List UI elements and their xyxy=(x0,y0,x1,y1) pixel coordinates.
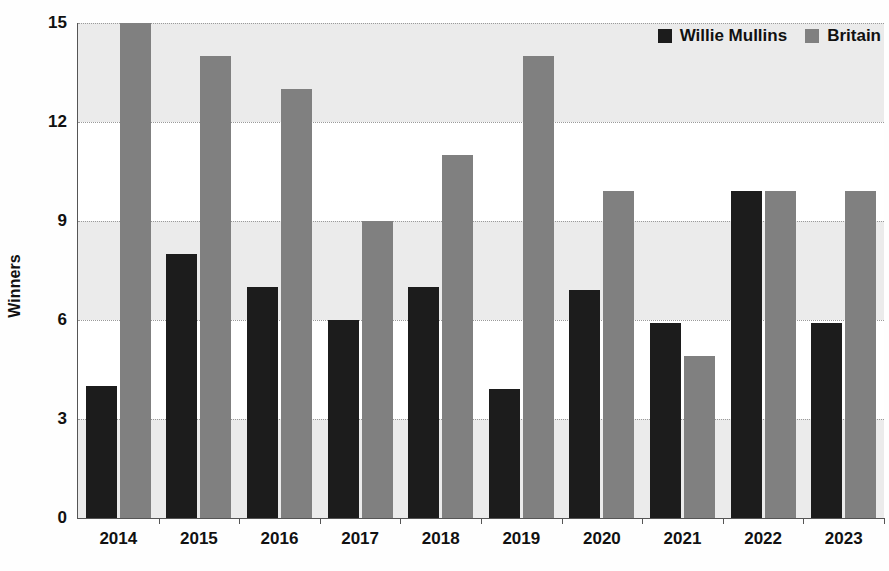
bar-2021-britain xyxy=(684,356,715,518)
bar-group: 2023 xyxy=(803,23,884,518)
y-axis-tick-label: 12 xyxy=(48,112,67,132)
y-axis-tick-label: 0 xyxy=(58,508,67,528)
y-axis-tick-label: 9 xyxy=(58,211,67,231)
bar-chart: Winners 03691215201420152016201720182019… xyxy=(0,0,889,571)
y-axis-tick-label: 15 xyxy=(48,13,67,33)
legend-label: Britain xyxy=(827,26,881,46)
x-axis-tick xyxy=(803,518,804,524)
x-axis-tick-label: 2018 xyxy=(422,529,460,549)
bar-2017-willie-mullins xyxy=(328,320,359,518)
legend-item-willie-mullins[interactable]: Willie Mullins xyxy=(658,26,788,46)
bar-2023-willie-mullins xyxy=(811,323,842,518)
bar-group: 2018 xyxy=(400,23,481,518)
legend-swatch-icon xyxy=(658,29,672,43)
legend-item-britain[interactable]: Britain xyxy=(805,26,881,46)
plot-area: 0369121520142015201620172018201920202021… xyxy=(77,23,884,519)
bar-group: 2015 xyxy=(159,23,240,518)
bar-2019-britain xyxy=(523,56,554,518)
x-axis-tick xyxy=(884,518,885,524)
x-axis-tick xyxy=(481,518,482,524)
bar-2016-willie-mullins xyxy=(247,287,278,518)
bar-2016-britain xyxy=(281,89,312,518)
y-axis-tick-label: 6 xyxy=(58,310,67,330)
legend-label: Willie Mullins xyxy=(680,26,788,46)
bar-group: 2022 xyxy=(723,23,804,518)
x-axis-tick xyxy=(159,518,160,524)
y-axis-title-label: Winners xyxy=(6,254,24,318)
bar-2018-britain xyxy=(442,155,473,518)
x-axis-tick xyxy=(723,518,724,524)
chart-legend: Willie MullinsBritain xyxy=(658,26,881,46)
bar-2017-britain xyxy=(362,221,393,518)
bar-2021-willie-mullins xyxy=(650,323,681,518)
x-axis-tick xyxy=(562,518,563,524)
bar-group: 2019 xyxy=(481,23,562,518)
bar-group: 2021 xyxy=(642,23,723,518)
y-axis-title: Winners xyxy=(0,0,30,571)
bar-2019-willie-mullins xyxy=(489,389,520,518)
bar-group: 2016 xyxy=(239,23,320,518)
x-axis-tick-label: 2023 xyxy=(825,529,863,549)
x-axis-tick xyxy=(642,518,643,524)
bar-2022-britain xyxy=(765,191,796,518)
bar-2015-britain xyxy=(200,56,231,518)
x-axis-tick-label: 2014 xyxy=(99,529,137,549)
x-axis-tick-label: 2021 xyxy=(664,529,702,549)
bar-2018-willie-mullins xyxy=(408,287,439,518)
bar-2014-britain xyxy=(120,23,151,518)
x-axis-tick-label: 2020 xyxy=(583,529,621,549)
y-axis-tick-label: 3 xyxy=(58,409,67,429)
bar-group: 2017 xyxy=(320,23,401,518)
bar-2020-britain xyxy=(603,191,634,518)
bar-2015-willie-mullins xyxy=(166,254,197,518)
bar-group: 2014 xyxy=(78,23,159,518)
x-axis-tick xyxy=(320,518,321,524)
x-axis-tick-label: 2017 xyxy=(341,529,379,549)
bar-2020-willie-mullins xyxy=(569,290,600,518)
bar-group: 2020 xyxy=(562,23,643,518)
x-axis-tick xyxy=(400,518,401,524)
x-axis-tick-label: 2016 xyxy=(261,529,299,549)
x-axis-tick-label: 2015 xyxy=(180,529,218,549)
bar-2023-britain xyxy=(845,191,876,518)
legend-swatch-icon xyxy=(805,29,819,43)
bar-2022-willie-mullins xyxy=(731,191,762,518)
x-axis-tick-label: 2019 xyxy=(502,529,540,549)
x-axis-tick xyxy=(239,518,240,524)
x-axis-tick-label: 2022 xyxy=(744,529,782,549)
bar-2014-willie-mullins xyxy=(86,386,117,518)
